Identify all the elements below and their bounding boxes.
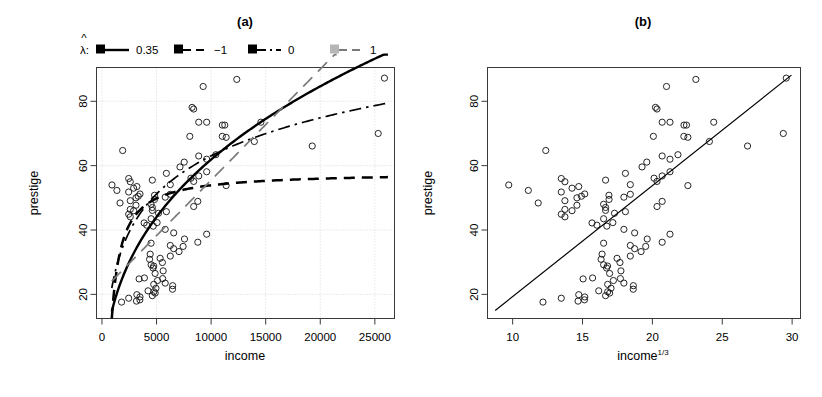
panel-a-ytick-label-2: 60 [78, 159, 90, 172]
panel-b-ytick-label-2: 60 [469, 159, 481, 172]
lambda-hat-accent: ^ [81, 32, 87, 44]
legend-label-0: 0.35 [136, 44, 158, 56]
legend-label-3: 1 [370, 44, 376, 56]
panel-b-x-label-exponent: 1/3 [658, 348, 670, 357]
legend-swatch-3 [330, 45, 339, 54]
figure-canvas: (a) ^ λ: 0.35−101 0500010000150002000025… [0, 0, 822, 397]
panel-b-xtick-label-2: 20 [646, 331, 659, 343]
panel-a-xtick-label-0: 0 [99, 331, 105, 343]
panel-b-xtick-label-0: 10 [506, 331, 519, 343]
lambda-symbol-label: λ: [80, 44, 89, 56]
panel-b-xtick-label-1: 15 [576, 331, 589, 343]
panel-b-xtick-label-4: 30 [786, 331, 799, 343]
panel-b-y-axis-label: prestige [421, 171, 435, 216]
panel-a-ytick-label-0: 20 [78, 288, 90, 301]
panel-b-ytick-label-3: 80 [469, 95, 481, 108]
panel-a-xtick-label-1: 5000 [144, 331, 170, 343]
panel-a-xtick-label-5: 25000 [359, 331, 391, 343]
panel-b-x-label-base: income [617, 349, 657, 363]
panel-b-title: (b) [635, 14, 652, 29]
panel-a-ytick-label-3: 80 [78, 95, 90, 108]
panel-a-xtick-label-3: 15000 [250, 331, 282, 343]
panel-b-ytick-label-1: 40 [469, 224, 481, 237]
panel-a-xtick-label-4: 20000 [304, 331, 336, 343]
legend-swatch-0 [96, 45, 105, 54]
two-panel-regression-figure: (a) ^ λ: 0.35−101 0500010000150002000025… [0, 0, 822, 397]
panel-a-y-axis-label: prestige [27, 171, 41, 216]
panel-b-ytick-label-0: 20 [469, 288, 481, 301]
panel-a-xtick-label-2: 10000 [195, 331, 227, 343]
panel-a-title: (a) [237, 14, 253, 29]
panel-a-ytick-label-1: 40 [78, 224, 90, 237]
legend-swatch-2 [248, 45, 257, 54]
legend-label-2: 0 [288, 44, 294, 56]
legend-label-1: −1 [214, 44, 227, 56]
legend-swatch-1 [174, 45, 183, 54]
panel-a-x-axis-label: income [225, 349, 265, 363]
figure-background [0, 0, 822, 397]
panel-b-xtick-label-3: 25 [716, 331, 729, 343]
